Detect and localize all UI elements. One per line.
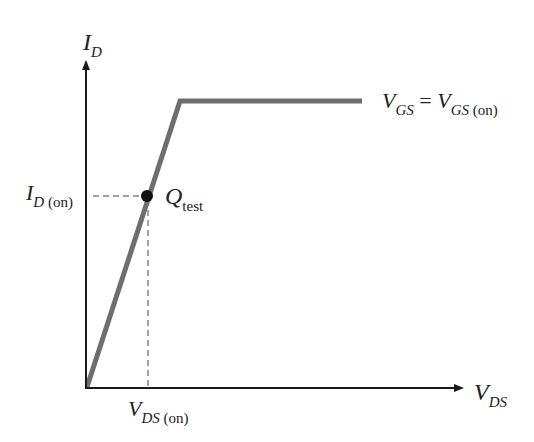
id-on-label: ID (on) bbox=[26, 182, 73, 204]
x-axis-label-sub: DS bbox=[489, 394, 507, 410]
y-axis-label-sub: D bbox=[91, 44, 102, 60]
id-on-label-sub: D bbox=[33, 194, 44, 210]
vds-on-label: VDS (on) bbox=[128, 398, 189, 420]
vds-on-label-sub: DS bbox=[141, 410, 159, 426]
curve-label-vgson-on: (on) bbox=[469, 102, 498, 118]
q-test-label-sub: test bbox=[182, 198, 203, 214]
y-axis-label: ID bbox=[83, 30, 102, 54]
curve-label-vgs: V bbox=[382, 88, 395, 113]
q-test-label: Qtest bbox=[165, 184, 203, 208]
curve-label-equals: = bbox=[414, 88, 437, 113]
curve-label-vgson: V bbox=[437, 88, 450, 113]
x-axis-label: VDS bbox=[474, 380, 507, 404]
curve-label-vgs-sub: GS bbox=[395, 102, 413, 118]
x-axis-label-main: V bbox=[474, 379, 489, 405]
y-axis-label-main: I bbox=[83, 29, 91, 55]
curve-label: VGS = VGS (on) bbox=[382, 90, 498, 112]
diagram-graphics bbox=[0, 0, 534, 442]
curve-label-vgson-sub: GS bbox=[451, 102, 469, 118]
drain-characteristic-curve bbox=[87, 101, 362, 387]
vds-on-label-main: V bbox=[128, 396, 141, 421]
q-test-point bbox=[141, 190, 153, 202]
vds-on-label-on: (on) bbox=[160, 410, 189, 426]
q-test-label-main: Q bbox=[165, 183, 182, 209]
id-on-label-on: (on) bbox=[44, 194, 73, 210]
mosfet-characteristic-diagram: ID VDS VGS = VGS (on) ID (on) VDS (on) Q… bbox=[0, 0, 534, 442]
